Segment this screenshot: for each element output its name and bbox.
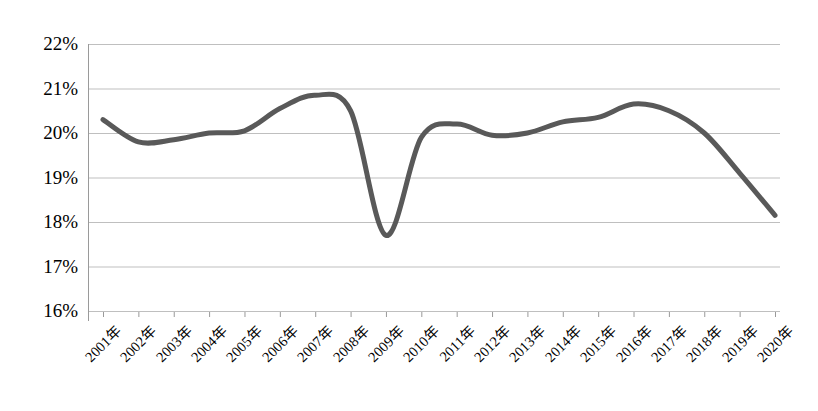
y-axis-tick-label: 22% (0, 34, 78, 53)
gridlines (88, 45, 780, 312)
line-chart: 16%17%18%19%20%21%22% 2001年2002年2003年200… (0, 0, 818, 411)
y-axis-tick-label: 21% (0, 79, 78, 98)
y-axis-tick-label: 20% (0, 123, 78, 142)
y-axis-tick-label: 16% (0, 301, 78, 320)
y-axis-tick-label: 18% (0, 212, 78, 231)
data-series-line (103, 94, 775, 235)
y-axis-tick-label: 19% (0, 168, 78, 187)
x-axis-tick-marks (104, 312, 776, 317)
y-axis-tick-label: 17% (0, 257, 78, 276)
